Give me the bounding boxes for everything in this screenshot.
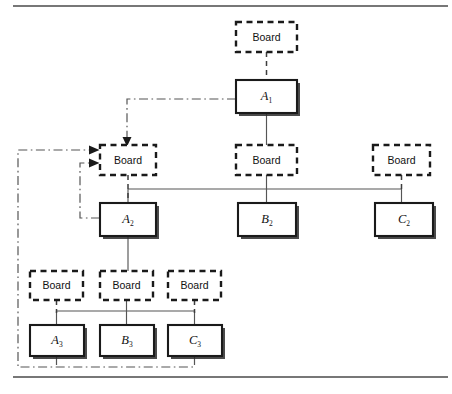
board-label-c3: Board	[180, 279, 208, 291]
board-label-b3: Board	[112, 279, 140, 291]
unit-subscript-b3: 3	[129, 339, 133, 348]
unit-node-b2[interactable]: B2	[238, 203, 299, 239]
feedback-a2-to-board-a2	[80, 163, 100, 218]
arrowhead-feedback-level3	[89, 146, 100, 155]
board-node-a2[interactable]: Board	[100, 145, 156, 175]
unit-node-c3[interactable]: C3	[168, 325, 225, 359]
board-node-b3[interactable]: Board	[100, 271, 153, 300]
unit-subscript-c3: 3	[197, 339, 201, 348]
board-node-a1[interactable]: Board	[236, 22, 297, 52]
unit-node-a1[interactable]: A1	[236, 80, 300, 116]
board-node-a3[interactable]: Board	[30, 271, 83, 300]
board-label-a3: Board	[42, 279, 70, 291]
board-node-b2[interactable]: Board	[236, 145, 297, 175]
unit-boxes-group: A1 A2 B2 C2	[30, 80, 436, 359]
board-node-c2[interactable]: Board	[373, 145, 430, 175]
unit-node-a3[interactable]: A3	[30, 325, 87, 359]
board-label-b2: Board	[252, 154, 280, 166]
board-label-a2: Board	[114, 154, 142, 166]
figure-canvas: Board Board Board Board Board Board	[0, 0, 452, 394]
unit-subscript-a2: 2	[130, 218, 134, 227]
unit-subscript-a1: 1	[268, 95, 272, 104]
board-node-c3[interactable]: Board	[168, 271, 221, 300]
unit-subscript-b2: 2	[269, 218, 273, 227]
unit-subscript-c2: 2	[406, 218, 410, 227]
unit-subscript-a3: 3	[59, 339, 63, 348]
unit-node-c2[interactable]: C2	[375, 203, 436, 239]
feedback-a1-to-board-a2	[127, 99, 236, 138]
arrowhead-feedback-a2	[89, 159, 100, 168]
organization-hierarchy-diagram: Board Board Board Board Board Board	[0, 0, 452, 394]
unit-node-b3[interactable]: B3	[100, 325, 157, 359]
unit-node-a2[interactable]: A2	[100, 203, 159, 239]
board-label-c2: Board	[387, 154, 415, 166]
board-label-a1: Board	[252, 31, 280, 43]
